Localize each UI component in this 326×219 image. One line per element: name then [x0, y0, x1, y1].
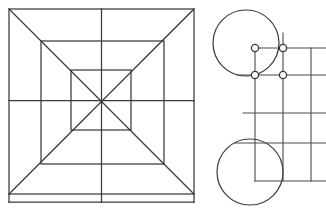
node-bottom-right — [279, 71, 286, 78]
figure-canvas — [0, 0, 326, 219]
lower-circle — [217, 139, 283, 205]
circles-and-grid-diagram — [213, 10, 326, 205]
node-top-right — [279, 44, 286, 51]
upper-circle — [213, 10, 279, 76]
node-bottom-left — [251, 71, 258, 78]
nested-squares-diagram — [9, 9, 194, 202]
node-top-left — [251, 44, 258, 51]
